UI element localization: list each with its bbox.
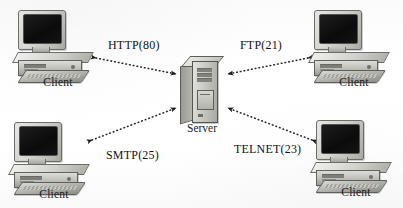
drive-bay-icon: [197, 73, 212, 77]
client-label: Client: [310, 186, 402, 198]
power-led-icon: [369, 175, 373, 179]
connection-line-ftp: [228, 58, 308, 74]
monitor-screen: [19, 126, 58, 156]
drive-slot-icon: [20, 176, 42, 180]
monitor-screen: [319, 14, 358, 44]
power-button-icon: [198, 114, 203, 117]
front-panel-icon: [197, 90, 214, 110]
server-label: Server: [166, 122, 238, 134]
monitor-icon: [14, 122, 62, 162]
monitor-icon: [18, 10, 66, 50]
client-top-right[interactable]: Client: [308, 10, 400, 86]
connection-label-http: HTTP(80): [108, 38, 160, 53]
monitor-screen: [321, 124, 360, 154]
server-tower-front: [192, 61, 218, 123]
connection-label-smtp: SMTP(25): [106, 148, 159, 163]
monitor-screen: [23, 14, 62, 44]
connection-line-telnet: [228, 108, 312, 140]
client-bottom-left[interactable]: Client: [8, 122, 100, 198]
client-label: Client: [308, 76, 400, 88]
drive-slot-icon: [24, 64, 46, 68]
panel-line: [200, 94, 210, 95]
drive-slot-icon: [322, 174, 344, 178]
client-top-left[interactable]: Client: [12, 10, 104, 86]
drive-bay-icon: [197, 78, 212, 82]
client-label: Client: [8, 188, 100, 200]
power-led-icon: [71, 65, 75, 69]
server-node[interactable]: Server: [180, 56, 224, 126]
power-led-icon: [367, 65, 371, 69]
monitor-icon: [314, 10, 362, 50]
connection-line-smtp: [92, 108, 176, 140]
drive-slot-icon: [320, 64, 342, 68]
drive-bay-icon: [197, 68, 212, 72]
connection-line-http: [96, 58, 176, 74]
connection-label-ftp: FTP(21): [240, 38, 282, 53]
network-diagram: server --> server --> server --> server …: [0, 0, 403, 208]
connection-label-telnet: TELNET(23): [234, 142, 301, 157]
monitor-icon: [316, 120, 364, 160]
client-label: Client: [12, 76, 104, 88]
client-bottom-right[interactable]: Client: [310, 120, 402, 196]
power-led-icon: [67, 177, 71, 181]
